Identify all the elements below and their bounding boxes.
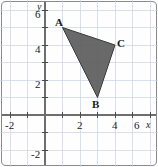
y-tick-label-2: 2 xyxy=(35,79,41,90)
vertex-label-c: C xyxy=(117,38,125,49)
x-tick-label-4: 4 xyxy=(112,120,118,131)
axis-lines xyxy=(2,2,156,165)
plot-canvas xyxy=(0,0,158,167)
y-tick-label-6: 6 xyxy=(35,9,41,20)
coordinate-plane-figure: y x 6 4 2 -2 -2 2 4 6 A B C xyxy=(0,0,158,167)
figure-frame xyxy=(2,2,157,166)
x-tick-label-2: 2 xyxy=(77,120,83,131)
grid-lines xyxy=(0,0,158,167)
y-tick-label-neg2: -2 xyxy=(31,149,40,160)
x-tick-label-neg2: -2 xyxy=(5,120,14,131)
vertex-label-a: A xyxy=(55,17,63,28)
x-tick-label-6: 6 xyxy=(134,120,140,131)
y-tick-label-4: 4 xyxy=(35,44,41,55)
x-axis-label: x xyxy=(146,120,150,130)
vertex-label-b: B xyxy=(92,99,99,110)
